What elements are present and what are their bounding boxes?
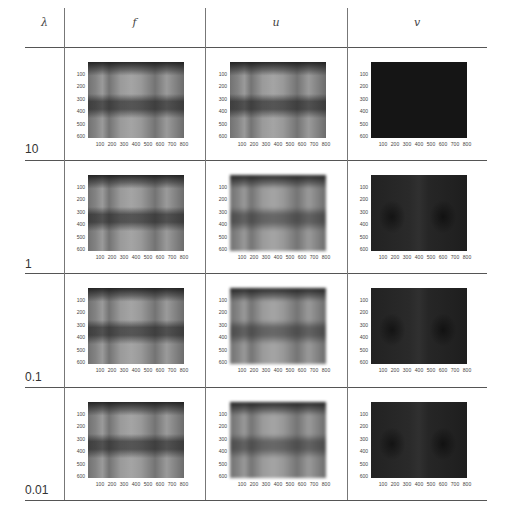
y-tick-label: 500 [350,347,368,353]
plot-v: 1002003004005006001002003004005006007008… [371,402,467,478]
y-tick-label: 400 [209,221,227,227]
y-tick-label: 300 [209,436,227,442]
y-tick-label: 200 [350,196,368,202]
y-tick-label: 300 [67,209,85,215]
column-divider [205,8,206,500]
y-tick-label: 600 [209,473,227,479]
plot-f: 1002003004005006001002003004005006007008… [88,288,184,364]
y-tick-label: 400 [209,108,227,114]
y-tick-label: 300 [67,322,85,328]
image-u [230,175,326,251]
y-tick-label: 100 [350,411,368,417]
y-tick-label: 300 [350,96,368,102]
y-tick-label: 500 [67,234,85,240]
y-tick-label: 500 [209,234,227,240]
y-tick-label: 300 [350,322,368,328]
y-tick-label: 200 [67,83,85,89]
plot-v: 1002003004005006001002003004005006007008… [371,62,467,138]
y-tick-label: 100 [67,411,85,417]
x-tick-label: 800 [459,481,475,487]
row-divider [25,160,487,161]
plot-v: 1002003004005006001002003004005006007008… [371,175,467,251]
y-tick-label: 600 [350,246,368,252]
image-v [371,62,467,138]
y-tick-label: 500 [350,121,368,127]
y-tick-label: 200 [67,423,85,429]
lambda-value: 1 [25,257,59,271]
y-tick-label: 200 [350,423,368,429]
y-tick-label: 500 [67,461,85,467]
y-tick-label: 400 [67,221,85,227]
y-tick-label: 500 [350,461,368,467]
image-f [88,62,184,138]
y-tick-label: 400 [67,334,85,340]
header-f: f [64,16,205,29]
y-tick-label: 300 [350,436,368,442]
y-tick-label: 600 [209,133,227,139]
column-divider [64,8,65,500]
plot-u: 1002003004005006001002003004005006007008… [230,62,326,138]
plot-f: 1002003004005006001002003004005006007008… [88,62,184,138]
x-tick-label: 800 [318,481,334,487]
lambda-value: 0.1 [25,370,59,384]
y-tick-label: 200 [209,309,227,315]
image-u [230,62,326,138]
image-f [88,402,184,478]
y-tick-label: 200 [67,309,85,315]
y-tick-label: 500 [67,347,85,353]
x-tick-label: 800 [176,141,192,147]
y-tick-label: 300 [350,209,368,215]
y-tick-label: 400 [350,334,368,340]
y-tick-label: 100 [350,71,368,77]
y-tick-label: 500 [350,234,368,240]
y-tick-label: 400 [350,221,368,227]
y-tick-label: 400 [209,448,227,454]
image-v [371,288,467,364]
y-tick-label: 100 [67,71,85,77]
image-v [371,402,467,478]
y-tick-label: 100 [209,184,227,190]
y-tick-label: 200 [209,423,227,429]
y-tick-label: 600 [209,246,227,252]
y-tick-label: 100 [209,297,227,303]
plot-v: 1002003004005006001002003004005006007008… [371,288,467,364]
y-tick-label: 100 [209,411,227,417]
y-tick-label: 500 [209,461,227,467]
y-tick-label: 600 [350,473,368,479]
y-tick-label: 400 [350,108,368,114]
header-u: u [205,16,347,29]
x-tick-label: 800 [318,367,334,373]
y-tick-label: 300 [209,209,227,215]
plot-f: 1002003004005006001002003004005006007008… [88,402,184,478]
image-v [371,175,467,251]
y-tick-label: 400 [209,334,227,340]
y-tick-label: 400 [67,108,85,114]
y-tick-label: 500 [209,347,227,353]
x-tick-label: 800 [176,481,192,487]
y-tick-label: 400 [350,448,368,454]
header-v: v [347,16,487,29]
y-tick-label: 300 [209,96,227,102]
y-tick-label: 200 [209,196,227,202]
y-tick-label: 300 [209,322,227,328]
image-u [230,288,326,364]
y-tick-label: 600 [67,133,85,139]
y-tick-label: 300 [67,96,85,102]
y-tick-label: 100 [209,71,227,77]
x-tick-label: 800 [459,141,475,147]
plot-u: 1002003004005006001002003004005006007008… [230,402,326,478]
y-tick-label: 200 [350,309,368,315]
y-tick-label: 600 [209,359,227,365]
x-tick-label: 800 [459,367,475,373]
plot-f: 1002003004005006001002003004005006007008… [88,175,184,251]
y-tick-label: 200 [209,83,227,89]
x-tick-label: 800 [176,254,192,260]
y-tick-label: 600 [67,359,85,365]
lambda-value: 10 [25,142,59,156]
y-tick-label: 600 [350,133,368,139]
table-bottom-rule [25,500,487,501]
lambda-value: 0.01 [25,483,59,497]
y-tick-label: 600 [67,246,85,252]
image-u [230,402,326,478]
header-lambda: λ [25,16,64,29]
